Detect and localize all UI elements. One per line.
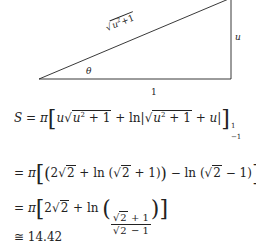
- equals: =: [22, 111, 40, 125]
- pi-symbol: π: [40, 111, 48, 125]
- u-symbol: u: [56, 111, 64, 125]
- plus: +: [111, 111, 129, 125]
- radicand: 2: [119, 211, 127, 223]
- radicand: 2: [212, 165, 222, 180]
- term: − 1: [128, 225, 149, 236]
- right-bracket: ]: [159, 196, 168, 221]
- evaluation-limits: 1−1: [231, 121, 241, 143]
- denominator: √2 − 1: [111, 225, 151, 236]
- right-bracket: ]: [252, 161, 256, 186]
- u-symbol: u: [153, 111, 161, 125]
- pi-symbol: π: [28, 201, 36, 215]
- term: + ln: [69, 201, 102, 215]
- plus-one: + 1: [85, 111, 110, 125]
- term: 2√: [44, 201, 59, 215]
- radicand: u2 + 1: [72, 110, 112, 125]
- u-symbol: u: [73, 111, 81, 125]
- left-paren: (: [102, 196, 111, 221]
- vertical-side-label: u: [235, 33, 241, 42]
- equals: =: [14, 201, 28, 215]
- radicand: 2: [60, 200, 70, 215]
- radicand: u2 + 1: [152, 110, 192, 125]
- term: 2√: [51, 166, 66, 180]
- equation-S-definition: S = π[u√u2 + 1 + ln|√u2 + 1 + u|]1−1: [14, 108, 241, 143]
- pi-symbol: π: [28, 166, 36, 180]
- angle-label: θ: [86, 67, 91, 76]
- radicand: 2: [121, 165, 131, 180]
- term: + 1: [128, 212, 149, 223]
- hypotenuse: [39, 0, 231, 79]
- sqrt-sign: √: [64, 111, 72, 125]
- fraction: √2 + 1√2 − 1: [111, 213, 151, 236]
- term: + ln (√: [76, 166, 121, 180]
- right-bracket: ]: [221, 106, 230, 131]
- radicand: 2: [66, 165, 76, 180]
- result-approximation: ≅ 14.42: [14, 231, 62, 243]
- term: + 1): [131, 166, 161, 180]
- numerator: √2 + 1: [111, 213, 151, 225]
- upper-limit: 1: [231, 121, 241, 132]
- plus-one: + 1: [166, 111, 191, 125]
- S-symbol: S: [14, 111, 22, 125]
- equals: =: [14, 166, 28, 180]
- lower-limit: −1: [231, 132, 241, 143]
- equation-step-1: = π[(2√2 + ln (√2 + 1)) − ln (√2 − 1)]: [14, 163, 256, 185]
- radicand: 2: [119, 224, 127, 236]
- ln: ln: [129, 111, 141, 125]
- base-label: 1: [151, 88, 157, 97]
- term: − ln (√: [167, 166, 212, 180]
- term: − 1): [222, 166, 252, 180]
- plus-u: + u: [192, 111, 217, 125]
